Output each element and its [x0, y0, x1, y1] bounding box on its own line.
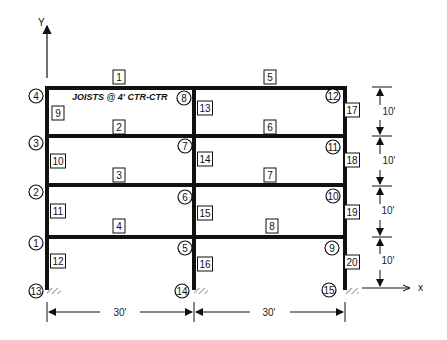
svg-text:18: 18 [346, 155, 358, 166]
frame-members [47, 88, 345, 288]
node-label-circle: 6 [178, 190, 192, 204]
fixed-supports [47, 288, 359, 294]
joist-spacing-note: JOISTS @ 4' CTR-CTR [72, 92, 168, 102]
member-label-box: 6 [264, 120, 276, 134]
fixed-support-icon [47, 288, 61, 294]
svg-text:7: 7 [182, 141, 188, 152]
member-label-box: 10 [51, 154, 66, 168]
node-label-circle: 11 [326, 140, 340, 154]
story-height-label: 10' [381, 255, 394, 266]
member-label-box: 9 [52, 106, 64, 120]
member-label-box: 1 [113, 70, 125, 84]
member-label-box: 16 [198, 257, 213, 271]
span-dimension-label: 30' [113, 307, 126, 318]
story-height-label: 10' [382, 106, 395, 117]
member-label-box: 5 [264, 70, 276, 84]
svg-text:3: 3 [33, 138, 39, 149]
node-label-circle: 13 [29, 284, 43, 298]
member-label-box: 11 [51, 204, 66, 218]
node-label-circle: 9 [325, 241, 339, 255]
svg-text:15: 15 [199, 208, 211, 219]
node-label-circle: 1 [29, 236, 43, 250]
svg-text:10: 10 [327, 191, 339, 202]
node-label-circle: 15 [322, 283, 336, 297]
svg-text:8: 8 [269, 221, 275, 232]
story-height-label: 10' [381, 205, 394, 216]
svg-text:17: 17 [346, 105, 358, 116]
member-label-box: 18 [345, 153, 360, 167]
node-label-circle: 14 [175, 284, 189, 298]
svg-text:16: 16 [199, 259, 211, 270]
svg-text:12: 12 [327, 91, 339, 102]
svg-text:5: 5 [267, 72, 273, 83]
svg-text:11: 11 [53, 206, 64, 217]
node-label-circle: 10 [326, 189, 340, 203]
node-label-circle: 5 [178, 241, 192, 255]
svg-text:13: 13 [199, 103, 211, 114]
svg-text:5: 5 [182, 243, 188, 254]
x-axis-label: x [418, 282, 423, 293]
member-label-box: 20 [345, 255, 360, 269]
svg-text:9: 9 [329, 243, 335, 254]
svg-text:15: 15 [323, 285, 335, 296]
svg-text:14: 14 [199, 154, 211, 165]
member-label-box: 2 [113, 120, 125, 134]
fixed-support-icon [194, 288, 208, 294]
svg-text:11: 11 [328, 142, 339, 153]
x-axis: x [362, 282, 423, 293]
member-label-box: 15 [198, 206, 213, 220]
svg-text:7: 7 [267, 170, 273, 181]
member-label-box: 19 [345, 205, 360, 219]
svg-text:1: 1 [116, 72, 122, 83]
story-height-label: 10' [382, 155, 395, 166]
node-labels: 123456789101112131415 [29, 89, 340, 298]
member-label-box: 4 [113, 219, 125, 233]
svg-text:20: 20 [346, 257, 358, 268]
member-label-box: 3 [113, 168, 125, 182]
svg-text:12: 12 [52, 256, 64, 267]
horizontal-dimensions [47, 302, 345, 322]
svg-text:6: 6 [267, 122, 273, 133]
svg-text:9: 9 [55, 108, 61, 119]
svg-text:3: 3 [116, 170, 122, 181]
node-label-circle: 3 [29, 136, 43, 150]
member-label-box: 8 [266, 219, 278, 233]
node-label-circle: 2 [29, 185, 43, 199]
member-label-box: 17 [345, 103, 360, 117]
svg-text:13: 13 [30, 286, 42, 297]
svg-text:1: 1 [33, 238, 39, 249]
span-dimension-label: 30' [262, 307, 275, 318]
svg-text:8: 8 [181, 93, 187, 104]
svg-text:19: 19 [346, 207, 358, 218]
member-label-box: 14 [198, 152, 213, 166]
svg-text:10: 10 [52, 156, 64, 167]
node-label-circle: 7 [178, 139, 192, 153]
fixed-support-icon [345, 288, 359, 294]
node-label-circle: 12 [326, 89, 340, 103]
y-axis-label: Y [38, 17, 45, 28]
svg-text:4: 4 [33, 91, 39, 102]
member-label-box: 12 [51, 254, 66, 268]
svg-text:2: 2 [116, 122, 122, 133]
y-axis: Y [38, 17, 47, 78]
svg-text:6: 6 [182, 192, 188, 203]
svg-text:2: 2 [33, 187, 39, 198]
svg-text:4: 4 [116, 221, 122, 232]
frame-diagram: Y x JOISTS @ 4' CTR-CTR 1234567891011121… [0, 0, 447, 340]
member-label-box: 13 [198, 101, 213, 115]
node-label-circle: 4 [29, 89, 43, 103]
node-label-circle: 8 [177, 91, 191, 105]
svg-text:14: 14 [176, 286, 188, 297]
member-label-box: 7 [264, 168, 276, 182]
